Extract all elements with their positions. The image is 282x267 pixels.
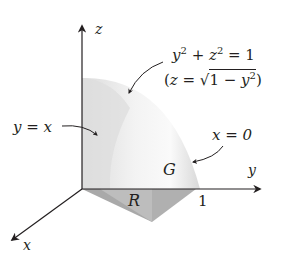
- solved-z: z: [170, 71, 178, 89]
- z-axis-label: z: [95, 22, 102, 36]
- plane-y-eq-x-label: y = x: [13, 120, 52, 135]
- region-R-right: [152, 189, 196, 222]
- surface-solved-equation: (z = √1 − y2): [164, 73, 262, 88]
- y-tick-1: 1: [198, 194, 208, 209]
- plane-x-eq-0-leader-arrow: [193, 146, 223, 162]
- solved-radicand-1: 1 −: [209, 71, 241, 89]
- surface-equation: y2 + z2 = 1: [172, 48, 255, 63]
- plane-x-eq-0-label: x = 0: [212, 128, 252, 143]
- solved-radicand: 1 − y2: [209, 69, 256, 89]
- x-axis: [12, 189, 82, 240]
- surface-eq-z: z: [209, 46, 217, 64]
- surface-eq-plus: +: [187, 46, 209, 64]
- solid-G-label: G: [163, 162, 176, 178]
- surface-leader-arrow: [129, 62, 163, 93]
- solved-radicand-y: y: [241, 71, 249, 89]
- region-R-label: R: [128, 193, 140, 209]
- surface-eq-rhs: = 1: [223, 46, 255, 64]
- y-axis-label: y: [248, 163, 256, 177]
- solved-eq-sqrt: = √: [178, 71, 210, 89]
- solved-close-paren: ): [256, 71, 262, 89]
- x-axis-label: x: [23, 238, 31, 252]
